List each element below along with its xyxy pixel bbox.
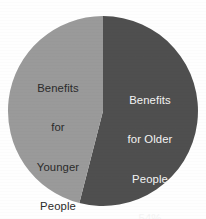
- pie-chart-graphic: [0, 0, 206, 219]
- pie-chart-figure: Benefits for Younger People 46% Benefits…: [0, 0, 206, 219]
